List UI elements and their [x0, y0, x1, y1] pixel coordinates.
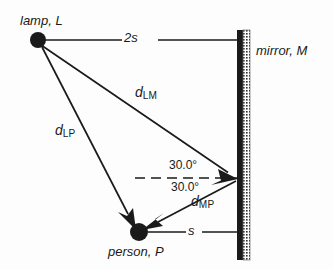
mirror-label: mirror, M	[256, 44, 307, 57]
angle-of-incidence-label: 30.0°	[169, 159, 197, 171]
distance-2s-label: 2s	[124, 31, 138, 44]
d-lm-subscript: LM	[143, 90, 157, 101]
lamp-point-marker	[30, 32, 46, 48]
person-label: person, P	[108, 245, 164, 258]
d-lm-symbol: d	[135, 84, 143, 100]
ray-diagram-figure: lamp, L mirror, M person, P 2s s dLM dLP…	[0, 0, 333, 270]
angle-of-reflection-label: 30.0°	[171, 181, 199, 193]
d-lp-label: dLP	[55, 123, 76, 139]
lamp-label: lamp, L	[20, 14, 63, 27]
d-lp-symbol: d	[55, 122, 63, 138]
d-mp-symbol: d	[191, 193, 199, 209]
mirror-assembly	[237, 30, 250, 260]
ray-lamp-to-mirror-line	[41, 45, 228, 173]
mirror-surface-bar	[237, 30, 243, 260]
d-mp-label: dMP	[191, 194, 214, 210]
distance-s-label: s	[188, 224, 195, 237]
ray-lamp-to-mirror	[41, 45, 238, 185]
mirror-backing-hatch	[243, 30, 250, 260]
d-mp-subscript: MP	[199, 199, 215, 210]
d-lm-label: dLM	[135, 85, 157, 101]
diagram-canvas	[0, 0, 333, 270]
d-lp-subscript: LP	[63, 128, 76, 139]
person-point-marker	[130, 223, 148, 241]
